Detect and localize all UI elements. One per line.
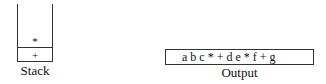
stack-item-bottom: + xyxy=(18,47,52,62)
stack-container: * + xyxy=(17,4,53,62)
stack-label: Stack xyxy=(12,64,58,78)
stack-item-top: * xyxy=(18,34,52,48)
output-label: Output xyxy=(165,66,314,80)
output-box: a b c * + d e * f + g xyxy=(165,49,314,65)
